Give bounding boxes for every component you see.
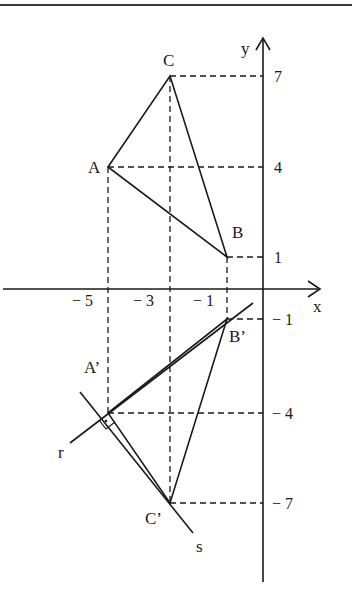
x-tick-label: − 3 [133,292,154,309]
y-tick-label: 1 [274,249,282,266]
y-tick-label: 4 [274,159,282,176]
point-label-c: C [163,51,174,70]
x-tick-label: − 1 [193,292,214,309]
line-s [80,392,193,533]
x-axis-label: x [313,297,322,316]
right-angle-dot [105,420,108,423]
y-tick-label: − 1 [272,311,293,328]
x-tick-label: − 5 [72,292,93,309]
y-axis-label: y [241,39,250,58]
y-tick-label: − 7 [272,495,293,512]
point-label-b: B [232,223,243,242]
line-label-r: r [58,443,64,462]
y-tick-label: 7 [274,68,282,85]
coordinate-diagram: y x − 5 − 3 − 1 7 4 1 − 1 − 4 − 7 C A B … [0,0,352,596]
point-label-a: A [88,158,101,177]
y-tick-label: − 4 [272,405,293,422]
triangle-a-prime-b-prime-c-prime [108,319,227,503]
point-label-b-prime: B’ [229,327,246,346]
point-label-a-prime: A’ [84,358,100,377]
line-label-s: s [196,537,203,556]
point-label-c-prime: C’ [145,509,162,528]
